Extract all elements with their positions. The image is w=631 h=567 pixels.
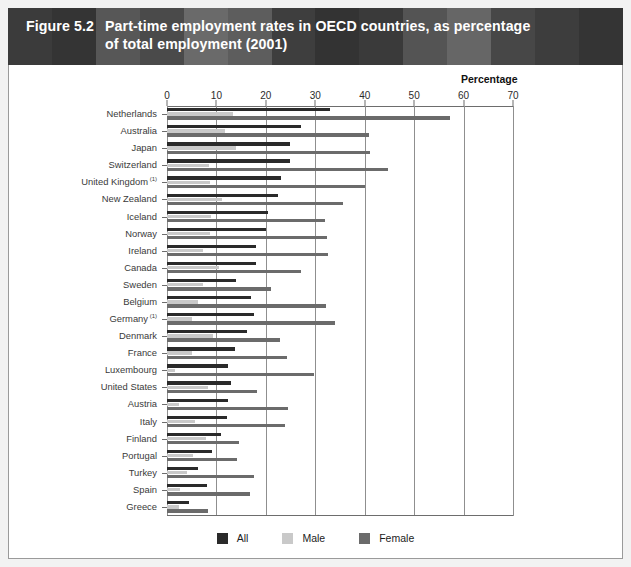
bar-all-new-zealand [167,194,278,197]
bar-male-united-kingdom [167,181,210,184]
bar-all-netherlands [167,108,330,111]
bar-all-ireland [167,245,256,248]
bar-male-new-zealand [167,198,222,201]
bar-female-netherlands [167,116,450,119]
bar-all-austria [167,399,228,402]
country-label-iceland: Iceland [127,211,157,222]
chart-row: United Kingdom (1) [167,174,513,191]
chart-rows: NetherlandsAustraliaJapanSwitzerlandUnit… [167,106,513,516]
bar-female-portugal [167,458,237,461]
bar-female-japan [167,151,370,154]
bar-female-australia [167,133,369,136]
chart-row: Germany (1) [167,311,513,328]
chart-row: France [167,345,513,362]
bar-all-sweden [167,279,236,282]
country-label-switzerland: Switzerland [109,159,157,170]
bar-male-switzerland [167,164,209,167]
bar-female-new-zealand [167,202,343,205]
bar-all-spain [167,484,207,487]
footnote-marker: (1) [148,313,157,319]
bar-female-france [167,356,287,359]
figure-title-line2: of total employment (2001) [105,35,530,53]
x-axis-bottom-line [167,515,513,516]
legend-swatch-all [217,533,228,544]
country-label-luxembourg: Luxembourg [105,364,157,375]
bar-all-denmark [167,330,247,333]
chart-row: Australia [167,123,513,140]
country-label-ireland: Ireland [128,245,157,256]
bar-female-denmark [167,338,280,341]
bar-male-denmark [167,334,213,337]
chart-row: Finland [167,431,513,448]
figure-title-line1: Part-time employment rates in OECD count… [105,18,530,34]
chart-row: Portugal [167,448,513,465]
bar-female-germany [167,321,335,324]
chart-row: Denmark [167,328,513,345]
bar-male-norway [167,232,210,235]
chart-row: Greece [167,499,513,516]
chart-row: Sweden [167,277,513,294]
country-label-united-kingdom: United Kingdom (1) [81,176,157,187]
legend-swatch-male [282,533,293,544]
bar-all-united-kingdom [167,176,281,179]
bar-female-united-states [167,390,257,393]
bar-male-germany [167,317,192,320]
bar-all-belgium [167,296,251,299]
legend-label-male: Male [302,532,325,544]
country-label-belgium: Belgium [123,296,157,307]
bar-male-greece [167,505,179,508]
bar-male-sweden [167,283,203,286]
country-label-netherlands: Netherlands [106,108,157,119]
bar-male-netherlands [167,112,233,115]
legend-swatch-female [359,533,370,544]
bar-female-austria [167,407,288,410]
chart-row: Canada [167,260,513,277]
bar-female-canada [167,270,301,273]
legend-item-female: Female [359,532,414,544]
bar-male-italy [167,420,195,423]
country-label-greece: Greece [126,501,157,512]
bar-male-austria [167,403,179,406]
bar-male-united-states [167,386,208,389]
legend-item-male: Male [282,532,325,544]
bar-all-turkey [167,467,198,470]
chart-row: Luxembourg [167,362,513,379]
bar-all-france [167,347,235,350]
country-label-italy: Italy [140,416,157,427]
bar-male-france [167,351,192,354]
country-label-new-zealand: New Zealand [102,193,157,204]
legend-item-all: All [217,532,249,544]
legend-label-all: All [237,532,249,544]
bar-female-greece [167,509,208,512]
bar-male-turkey [167,471,187,474]
gridline-70 [513,106,514,516]
bar-female-united-kingdom [167,185,365,188]
chart-row: Spain [167,482,513,499]
chart-panel: Percentage 010203040506070 NetherlandsAu… [8,65,623,559]
bar-male-spain [167,488,180,491]
bar-female-sweden [167,287,271,290]
bar-all-finland [167,433,221,436]
bar-all-canada [167,262,256,265]
bar-female-finland [167,441,239,444]
country-label-denmark: Denmark [119,330,157,341]
chart-row: Netherlands [167,106,513,123]
country-label-turkey: Turkey [129,467,157,478]
bar-male-japan [167,146,236,149]
bar-female-ireland [167,253,328,256]
chart-row: New Zealand [167,191,513,208]
chart-row: Japan [167,140,513,157]
bar-all-germany [167,313,254,316]
bar-all-united-states [167,381,231,384]
bar-female-norway [167,236,327,239]
country-label-sweden: Sweden [123,279,157,290]
chart-row: Belgium [167,294,513,311]
bar-all-australia [167,125,301,128]
figure-title: Part-time employment rates in OECD count… [105,17,530,53]
bar-female-belgium [167,304,326,307]
bar-male-portugal [167,454,193,457]
chart-row: Norway [167,226,513,243]
figure-header-banner: Figure 5.2Part-time employment rates in … [8,8,623,65]
country-label-spain: Spain [133,484,157,495]
bar-female-spain [167,492,250,495]
